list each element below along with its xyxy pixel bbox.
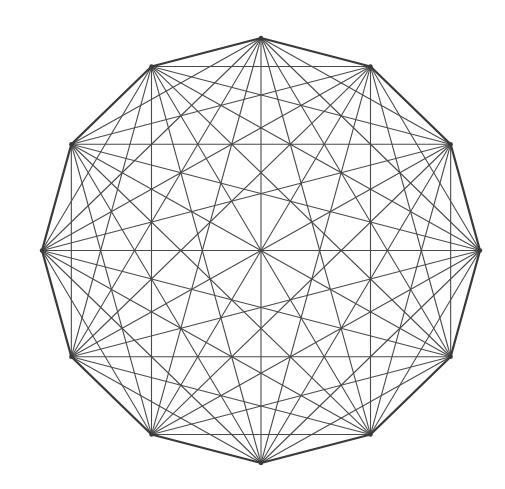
vertex-11	[149, 64, 153, 68]
polygon-edge	[152, 38, 262, 66]
diagonal-line	[71, 144, 261, 463]
vertex-2	[448, 142, 452, 146]
polygon-edge	[371, 357, 451, 435]
diagonals-group	[42, 38, 480, 463]
vertex-10	[69, 142, 73, 146]
diagonal-line	[71, 357, 261, 463]
diagonal-line	[71, 144, 370, 434]
polygon-edge	[71, 66, 151, 144]
vertex-3	[478, 248, 482, 252]
polygon-edge	[42, 251, 71, 357]
polygon-edge	[42, 144, 71, 250]
polygon-edge	[371, 66, 451, 144]
complete-graph-svg	[0, 0, 505, 489]
vertex-0	[259, 36, 263, 40]
vertex-8	[69, 355, 73, 359]
vertex-5	[368, 432, 372, 436]
polygon-edge	[152, 435, 262, 463]
diagonal-line	[42, 251, 152, 435]
vertex-7	[149, 432, 153, 436]
diagonal-line	[71, 66, 151, 356]
vertex-4	[448, 355, 452, 359]
diagonal-line	[152, 144, 451, 434]
polygon-edge	[71, 357, 151, 435]
dodecagon-diagram	[0, 0, 505, 489]
polygon-edge	[261, 38, 371, 66]
diagonal-line	[71, 144, 151, 434]
diagonal-line	[152, 66, 481, 250]
vertex-1	[368, 64, 372, 68]
vertex-9	[40, 248, 44, 252]
diagonal-line	[71, 66, 370, 356]
polygon-edge	[451, 251, 480, 357]
polygon-edge	[451, 144, 480, 250]
diagonal-line	[152, 66, 451, 356]
diagonal-line	[152, 66, 451, 144]
polygon-edge	[261, 435, 371, 463]
diagonal-line	[42, 251, 371, 435]
vertex-6	[259, 461, 263, 465]
diagonal-line	[42, 66, 152, 250]
